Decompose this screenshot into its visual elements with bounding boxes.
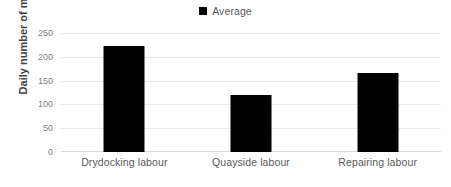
y-tick-label: 100 (38, 99, 53, 109)
bar-slot (314, 33, 441, 152)
x-tick-label: Quayside labour (188, 156, 315, 168)
chart-legend: Average (0, 6, 451, 17)
x-tick-label: Repairing labour (314, 156, 441, 168)
y-tick-label: 150 (38, 76, 53, 86)
bar-slot (188, 33, 315, 152)
y-tick-label: 250 (38, 28, 53, 38)
bar-drydocking-labour[interactable] (104, 46, 145, 152)
x-tick-label: Drydocking labour (61, 156, 188, 168)
bar-repairing-labour[interactable] (357, 73, 398, 152)
legend-item-label: Average (212, 6, 252, 17)
y-axis-ticks: 250 200 150 100 50 0 (0, 33, 57, 152)
plot-area (61, 33, 441, 152)
bar-chart: Average Daily number of men 250 200 150 … (0, 0, 451, 187)
bar-slot (61, 33, 188, 152)
y-tick-label: 200 (38, 52, 53, 62)
bar-group (61, 33, 441, 152)
y-tick-label: 50 (43, 123, 53, 133)
legend-item-average: Average (199, 6, 252, 17)
x-axis-labels: Drydocking labour Quayside labour Repair… (61, 156, 441, 176)
square-marker-icon (199, 7, 207, 15)
y-tick-label: 0 (48, 147, 53, 157)
bar-quayside-labour[interactable] (230, 95, 271, 152)
